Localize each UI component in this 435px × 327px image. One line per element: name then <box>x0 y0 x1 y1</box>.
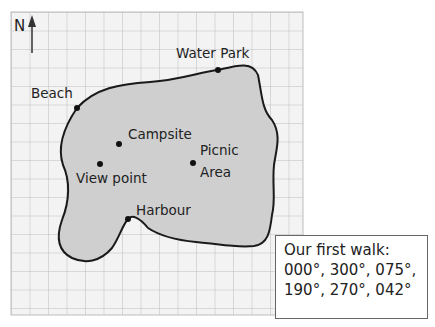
location-label: Harbour <box>136 202 191 218</box>
walk-bearings-line1: 000°, 300°, 075°, <box>284 260 427 280</box>
location-dot-icon <box>190 160 196 166</box>
location-dot-icon <box>125 216 131 222</box>
walk-title: Our first walk: <box>284 240 427 260</box>
location-label: View point <box>76 170 147 186</box>
location-dot-icon <box>97 161 103 167</box>
walk-bearings-line2: 190°, 270°, 042° <box>284 280 427 300</box>
location-dot-icon <box>74 105 80 111</box>
location-dot-icon <box>215 67 221 73</box>
walk-bearings-box: Our first walk: 000°, 300°, 075°, 190°, … <box>275 235 428 319</box>
location-label: Water Park <box>176 45 250 61</box>
location-label: Beach <box>31 85 73 101</box>
location-label: Campsite <box>128 126 192 142</box>
location-label-line1: Picnic <box>200 142 239 158</box>
location-label-line2: Area <box>200 164 231 180</box>
location-dot-icon <box>116 141 122 147</box>
north-label: N <box>14 17 25 35</box>
